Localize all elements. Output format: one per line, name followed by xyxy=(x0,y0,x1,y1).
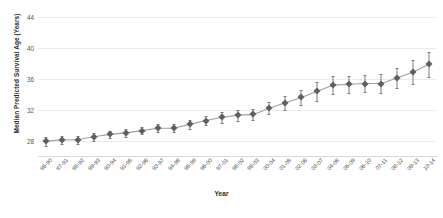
data-point xyxy=(329,8,337,156)
error-bar-cap xyxy=(412,84,415,85)
marker-diamond xyxy=(378,80,385,87)
error-bar-cap xyxy=(316,82,319,83)
marker-diamond xyxy=(138,127,145,134)
marker-diamond xyxy=(394,75,401,82)
error-bar-cap xyxy=(108,138,111,139)
marker-diamond xyxy=(425,61,432,68)
marker-diamond xyxy=(58,136,65,143)
x-axis-tick-label: 09-13 xyxy=(406,157,420,171)
marker-diamond xyxy=(154,125,161,132)
data-point xyxy=(425,8,433,156)
x-axis-tick-label: 87-91 xyxy=(55,157,69,171)
data-point xyxy=(313,8,321,156)
data-point xyxy=(218,8,226,156)
data-point xyxy=(234,8,242,156)
error-bar-cap xyxy=(284,96,287,97)
plot-area: 2832364044 xyxy=(38,8,437,156)
data-point xyxy=(377,8,385,156)
x-axis-tick-label: 92-96 xyxy=(135,157,149,171)
error-bar-cap xyxy=(332,76,335,77)
x-axis-tick-label: 94-98 xyxy=(167,157,181,171)
marker-diamond xyxy=(282,99,289,106)
x-axis-tick-label: 07-11 xyxy=(374,157,388,171)
error-bar-cap xyxy=(380,93,383,94)
y-axis-tick-label: 32 xyxy=(8,106,34,113)
x-axis-tick-label: 06-10 xyxy=(358,157,372,171)
error-bar-cap xyxy=(92,141,95,142)
marker-diamond xyxy=(122,129,129,136)
x-axis-tick-labels: 86-9087-9188-9289-9390-9491-9592-9693-97… xyxy=(38,157,437,193)
data-point xyxy=(202,8,210,156)
data-point xyxy=(58,8,66,156)
error-bar-cap xyxy=(268,102,271,103)
data-point xyxy=(297,8,305,156)
x-axis-tick-label: 08-12 xyxy=(390,157,404,171)
y-axis-tick-label: 40 xyxy=(8,45,34,52)
error-bar-cap xyxy=(396,88,399,89)
x-axis-tick-label: 05-09 xyxy=(342,157,356,171)
error-bar-cap xyxy=(124,137,127,138)
x-axis-tick-label: 00-04 xyxy=(262,157,276,171)
data-point xyxy=(361,8,369,156)
marker-diamond xyxy=(266,105,273,112)
x-axis-tick-label: 03-07 xyxy=(310,157,324,171)
y-axis-title: Median Predicted Survival Age (Years) xyxy=(13,0,20,149)
error-bar-cap xyxy=(412,60,415,61)
error-bar-cap xyxy=(284,110,287,111)
y-axis-tick-label: 36 xyxy=(8,75,34,82)
x-axis-tick-label: 97-01 xyxy=(214,157,228,171)
y-axis-tick-label: 28 xyxy=(8,137,34,144)
data-point xyxy=(154,8,162,156)
error-bar-cap xyxy=(220,123,223,124)
x-axis-tick-label: 91-95 xyxy=(119,157,133,171)
error-bar-cap xyxy=(156,132,159,133)
marker-diamond xyxy=(74,136,81,143)
x-axis-tick-label: 01-05 xyxy=(278,157,292,171)
x-axis-tick-label: 98-02 xyxy=(230,157,244,171)
error-bar-cap xyxy=(348,76,351,77)
x-axis-tick-label: 86-90 xyxy=(39,157,53,171)
data-point xyxy=(186,8,194,156)
error-bar-cap xyxy=(364,75,367,76)
marker-diamond xyxy=(90,133,97,140)
error-bar-cap xyxy=(428,52,431,53)
error-bar-cap xyxy=(380,74,383,75)
x-axis-tick-label: 93-97 xyxy=(151,157,165,171)
data-point xyxy=(122,8,130,156)
data-point xyxy=(249,8,257,156)
error-bar-cap xyxy=(188,129,191,130)
x-axis-tick-label: 02-06 xyxy=(294,157,308,171)
marker-diamond xyxy=(186,121,193,128)
marker-diamond xyxy=(234,112,241,119)
marker-diamond xyxy=(314,88,321,95)
error-bar-cap xyxy=(252,120,255,121)
x-axis-tick-label: 88-92 xyxy=(71,157,85,171)
x-axis-tick-label: 96-00 xyxy=(198,157,212,171)
error-bar-cap xyxy=(300,90,303,91)
x-axis-tick-label: 10-14 xyxy=(422,157,436,171)
y-axis-tick-label: 44 xyxy=(8,14,34,21)
data-point xyxy=(42,8,50,156)
marker-diamond xyxy=(362,80,369,87)
marker-diamond xyxy=(346,81,353,88)
error-bar-cap xyxy=(204,125,207,126)
error-bar-cap xyxy=(76,144,79,145)
error-bar-cap xyxy=(316,101,319,102)
marker-diamond xyxy=(410,68,417,75)
x-axis-tick-label: 90-94 xyxy=(103,157,117,171)
marker-diamond xyxy=(250,111,257,118)
error-bar-cap xyxy=(348,93,351,94)
error-bar-cap xyxy=(268,114,271,115)
error-bar-cap xyxy=(396,68,399,69)
error-bar-cap xyxy=(172,132,175,133)
data-point xyxy=(393,8,401,156)
marker-diamond xyxy=(42,138,49,145)
data-points-layer xyxy=(38,8,437,156)
error-bar-cap xyxy=(60,144,63,145)
error-bar-cap xyxy=(236,121,239,122)
error-bar-cap xyxy=(364,92,367,93)
data-point xyxy=(345,8,353,156)
marker-diamond xyxy=(170,125,177,132)
x-axis-tick-label: 04-08 xyxy=(326,157,340,171)
error-bar-cap xyxy=(428,77,431,78)
